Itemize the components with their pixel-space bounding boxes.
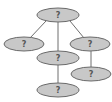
- node-middle: ?: [37, 51, 79, 65]
- edge-root-right: [70, 21, 84, 38]
- node-middle-child-label: ?: [56, 86, 61, 95]
- node-left: ?: [4, 37, 44, 51]
- nodes: ? ? ? ? ? ?: [4, 8, 111, 97]
- node-right-label: ?: [88, 40, 93, 49]
- node-right-child: ?: [71, 67, 111, 81]
- node-right: ?: [70, 37, 110, 51]
- node-root-label: ?: [56, 11, 61, 20]
- node-right-child-label: ?: [89, 70, 94, 79]
- edge-root-left: [30, 21, 46, 38]
- node-root: ?: [37, 8, 79, 22]
- node-middle-child: ?: [37, 83, 79, 97]
- node-left-label: ?: [22, 40, 27, 49]
- tree-diagram: ? ? ? ? ? ?: [0, 0, 112, 102]
- node-middle-label: ?: [56, 54, 61, 63]
